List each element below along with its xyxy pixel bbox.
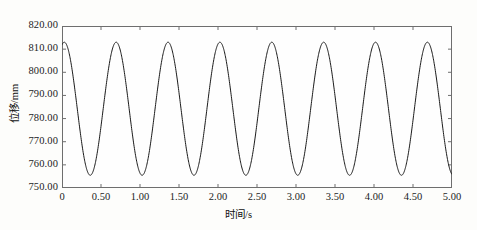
y-tick-label: 760.00 (6, 158, 58, 169)
y-tick-label: 820.00 (6, 19, 58, 30)
y-tick-label: 810.00 (6, 42, 58, 53)
displacement-waveform-plot (62, 26, 452, 188)
x-tick-label: 5.00 (429, 191, 475, 202)
x-axis-title: 时间/s (0, 206, 477, 221)
figure-canvas: 750.00760.00770.00780.00790.00800.00810.… (0, 0, 477, 230)
y-axis-title: 位移/mm (6, 69, 21, 139)
waveform-line (62, 42, 452, 175)
chart-screenshot: 750.00760.00770.00780.00790.00800.00810.… (0, 0, 477, 230)
